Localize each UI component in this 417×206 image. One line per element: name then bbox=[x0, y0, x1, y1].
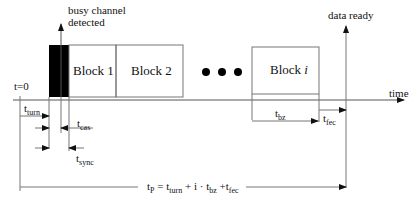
t-zero-label: t=0 bbox=[14, 80, 29, 92]
formula-term2-sub: bz bbox=[209, 186, 217, 195]
t-sync-sub: sync bbox=[79, 158, 94, 167]
ellipsis-dot bbox=[202, 68, 210, 76]
formula-plus2: + bbox=[217, 180, 226, 192]
block-1-label: Block 1 bbox=[73, 64, 114, 78]
block-i-prefix: Block bbox=[270, 62, 304, 77]
block-i-label: Block i bbox=[270, 63, 308, 77]
t-fec-sub: fec bbox=[326, 118, 336, 127]
ellipsis-dot bbox=[218, 68, 226, 76]
t-sync-label: tsync bbox=[76, 152, 94, 169]
busy-channel-line2: detected bbox=[68, 16, 126, 28]
busy-channel-line1: busy channel bbox=[68, 4, 126, 16]
timing-diagram-canvas bbox=[0, 0, 417, 206]
block-2-label: Block 2 bbox=[131, 64, 172, 78]
formula-plus1: + i · bbox=[182, 180, 206, 192]
formula-eq: = bbox=[155, 180, 167, 192]
t-p-formula: tP = tturn + i · tbz +tfec bbox=[147, 180, 239, 197]
formula-term1-sub: turn bbox=[169, 186, 182, 195]
busy-channel-label: busy channel detected bbox=[68, 4, 126, 28]
t-cas-sub: cas bbox=[80, 123, 90, 132]
block-i-index: i bbox=[304, 62, 308, 77]
t-turn-sub: turn bbox=[27, 108, 40, 117]
t-turn-label: tturn bbox=[24, 102, 40, 119]
time-axis-label: time bbox=[389, 87, 409, 99]
t-bz-label: tbz bbox=[275, 107, 286, 124]
t-fec-label: tfec bbox=[323, 112, 336, 129]
t-cas-label: tcas bbox=[77, 117, 90, 134]
formula-term3-sub: fec bbox=[229, 186, 239, 195]
data-ready-label: data ready bbox=[328, 9, 374, 21]
ellipsis-dot bbox=[234, 68, 242, 76]
t-bz-sub: bz bbox=[278, 113, 286, 122]
busy-channel-block bbox=[49, 45, 69, 97]
